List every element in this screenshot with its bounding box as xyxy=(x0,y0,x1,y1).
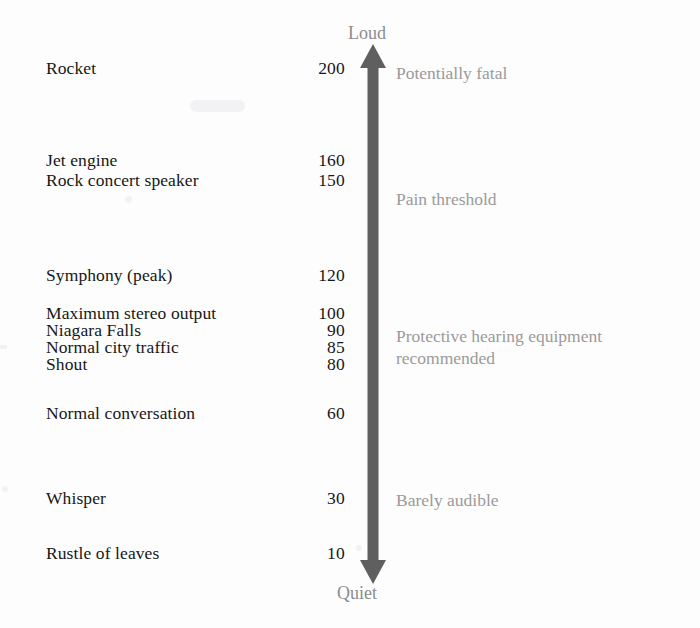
sound-source-label: Rustle of leaves xyxy=(46,545,159,563)
sound-source-label: Rock concert speaker xyxy=(46,172,199,190)
sound-source-decibel-value: 10 xyxy=(245,545,345,563)
scan-artifact xyxy=(2,486,8,492)
hearing-risk-annotation: Pain threshold xyxy=(396,188,497,210)
sound-source-decibel-value: 60 xyxy=(245,405,345,423)
sound-source-label: Jet engine xyxy=(46,152,117,170)
annotation-line: Barely audible xyxy=(396,489,499,511)
axis-caption-loud: Loud xyxy=(348,24,386,42)
scan-artifact xyxy=(190,100,245,112)
scan-artifact xyxy=(0,345,7,349)
sound-source-decibel-value: 160 xyxy=(245,152,345,170)
sound-source-label: Normal conversation xyxy=(46,405,195,423)
annotation-line: Potentially fatal xyxy=(396,62,507,84)
sound-source-decibel-value: 200 xyxy=(245,60,345,78)
double-headed-vertical-arrow-icon xyxy=(352,44,394,584)
sound-source-decibel-value: 30 xyxy=(245,490,345,508)
sound-source-decibel-value: 120 xyxy=(245,267,345,285)
sound-source-label: Rocket xyxy=(46,60,96,78)
sound-source-label: Whisper xyxy=(46,490,106,508)
decibel-scale-figure: Loud Quiet Rocket200Jet engine160Rock co… xyxy=(0,0,700,628)
sound-source-label: Symphony (peak) xyxy=(46,267,172,285)
scan-artifact xyxy=(125,196,132,203)
annotation-line: Protective hearing equipment xyxy=(396,325,602,347)
hearing-risk-annotation: Protective hearing equipmentrecommended xyxy=(396,325,602,369)
sound-source-decibel-value: 150 xyxy=(245,172,345,190)
sound-source-label: Shout xyxy=(46,356,87,374)
sound-source-decibel-value: 80 xyxy=(245,356,345,374)
annotation-line: Pain threshold xyxy=(396,188,497,210)
loudness-axis-arrow xyxy=(352,44,394,584)
axis-caption-quiet: Quiet xyxy=(337,584,377,602)
hearing-risk-annotation: Potentially fatal xyxy=(396,62,507,84)
hearing-risk-annotation: Barely audible xyxy=(396,489,499,511)
annotation-line: recommended xyxy=(396,347,602,369)
